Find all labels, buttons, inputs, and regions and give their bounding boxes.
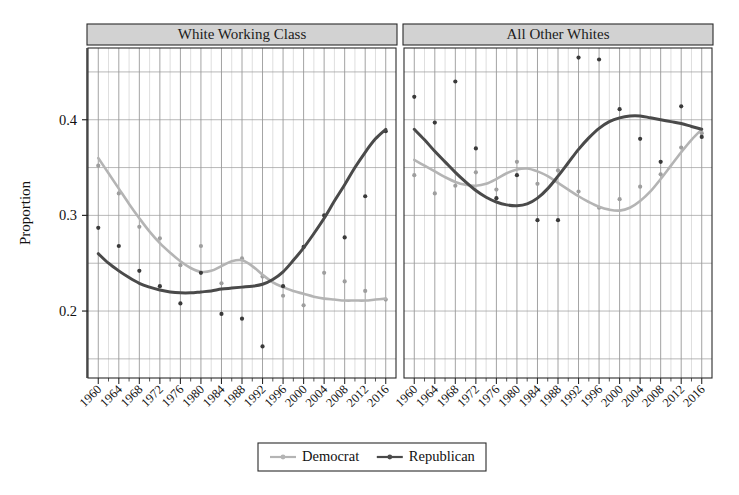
- legend-label-republican: Republican: [409, 448, 476, 464]
- chart-legend: DemocratRepublican: [258, 443, 486, 471]
- data-point: [597, 57, 601, 61]
- data-point: [137, 269, 141, 273]
- data-point: [679, 104, 683, 108]
- data-point: [240, 317, 244, 321]
- data-point: [638, 185, 642, 189]
- data-point: [158, 284, 162, 288]
- data-point: [453, 79, 457, 83]
- y-tick-label: 0.2: [59, 303, 77, 319]
- data-point: [700, 135, 704, 139]
- data-point: [199, 244, 203, 248]
- data-point: [515, 173, 519, 177]
- data-point: [535, 218, 539, 222]
- data-point: [515, 160, 519, 164]
- data-point: [433, 121, 437, 125]
- data-point: [363, 194, 367, 198]
- panel-title: All Other Whites: [506, 26, 609, 42]
- data-point: [535, 182, 539, 186]
- data-point: [260, 344, 264, 348]
- data-point: [433, 191, 437, 195]
- data-point: [343, 235, 347, 239]
- data-point: [281, 284, 285, 288]
- data-point: [117, 244, 121, 248]
- data-point: [474, 146, 478, 150]
- data-point: [618, 107, 622, 111]
- panels-group: White Working Class196019641968197219761…: [77, 24, 713, 410]
- data-point: [474, 170, 478, 174]
- data-point: [219, 281, 223, 285]
- data-point: [199, 271, 203, 275]
- proportion-by-class-chart: White Working Class196019641968197219761…: [0, 0, 739, 495]
- data-point: [576, 189, 580, 193]
- data-point: [137, 225, 141, 229]
- data-point: [494, 187, 498, 191]
- data-point: [618, 197, 622, 201]
- data-point: [412, 173, 416, 177]
- data-point: [343, 279, 347, 283]
- y-axis-title: Proportion: [17, 180, 33, 245]
- legend-marker-icon: [281, 455, 286, 460]
- legend-marker-icon: [387, 455, 392, 460]
- y-tick-label: 0.4: [59, 112, 78, 128]
- data-point: [219, 312, 223, 316]
- data-point: [96, 164, 100, 168]
- chart-figure: White Working Class196019641968197219761…: [0, 0, 739, 495]
- panel-title: White Working Class: [178, 26, 307, 42]
- data-point: [96, 226, 100, 230]
- data-point: [638, 137, 642, 141]
- data-point: [363, 289, 367, 293]
- data-point: [178, 301, 182, 305]
- data-point: [453, 184, 457, 188]
- legend-label-democrat: Democrat: [302, 448, 359, 464]
- data-point: [322, 271, 326, 275]
- data-point: [556, 218, 560, 222]
- panel-all-other-whites: All Other Whites196019641968197219761980…: [393, 24, 713, 410]
- data-point: [281, 294, 285, 298]
- data-point: [494, 196, 498, 200]
- panel-white-working-class: White Working Class196019641968197219761…: [77, 24, 397, 410]
- data-point: [659, 160, 663, 164]
- data-point: [412, 95, 416, 99]
- data-point: [576, 55, 580, 59]
- y-tick-label: 0.3: [59, 207, 77, 223]
- data-point: [302, 303, 306, 307]
